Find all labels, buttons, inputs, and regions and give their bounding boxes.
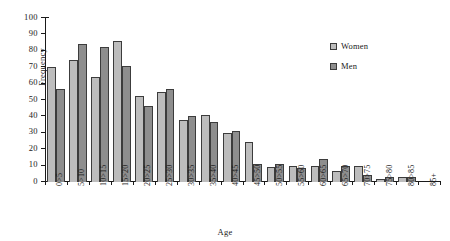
x-tick <box>221 181 222 185</box>
y-tick-label: 80 <box>29 44 38 54</box>
bar-men-10>15 <box>100 47 109 182</box>
x-tick-label: 40>45 <box>231 164 240 186</box>
x-tick <box>264 181 265 185</box>
x-tick-label: 5>10 <box>77 169 86 186</box>
bar-women-15>20 <box>113 41 122 182</box>
y-tick-label: 0 <box>33 176 38 186</box>
y-axis-line <box>45 18 46 182</box>
x-tick <box>243 181 244 185</box>
x-tick <box>440 181 441 185</box>
x-tick <box>111 181 112 185</box>
y-tick-label: 60 <box>29 77 38 87</box>
x-tick-label: 80>85 <box>407 164 416 186</box>
x-tick <box>177 181 178 185</box>
legend-label-men: Men <box>341 61 357 71</box>
x-tick-label: 60>65 <box>319 164 328 186</box>
x-tick-label: 45>50 <box>253 164 262 186</box>
x-tick-label: 30>35 <box>187 164 196 186</box>
y-tick: 60 <box>41 83 46 84</box>
x-tick-label: 75>80 <box>385 164 394 186</box>
bar-women-65>70 <box>332 171 341 182</box>
y-tick-label: 90 <box>29 28 38 38</box>
frequency-by-age-bar-chart: Frequency 0102030405060708090100 0>55>10… <box>0 0 450 241</box>
bar-women-5>10 <box>69 60 78 182</box>
y-tick-label: 70 <box>29 61 38 71</box>
x-tick-label: 50>55 <box>275 164 284 186</box>
x-tick-label: 25>30 <box>165 164 174 186</box>
y-tick-label: 20 <box>29 143 38 153</box>
x-tick-label: 85+ <box>429 173 438 186</box>
bar-women-75>80 <box>376 179 385 182</box>
y-tick: 10 <box>41 165 46 166</box>
y-tick: 70 <box>41 66 46 67</box>
legend: Women Men <box>330 41 368 81</box>
y-tick: 40 <box>41 115 46 116</box>
x-tick <box>45 181 46 185</box>
x-tick <box>155 181 156 185</box>
plot-area: 0102030405060708090100 <box>45 18 440 182</box>
bar-women-0>5 <box>47 67 56 182</box>
bar-men-5>10 <box>78 44 87 182</box>
x-tick-label: 10>15 <box>99 164 108 186</box>
y-tick: 50 <box>41 99 46 100</box>
y-tick: 20 <box>41 148 46 149</box>
x-tick <box>67 181 68 185</box>
legend-label-women: Women <box>341 41 368 51</box>
x-tick <box>286 181 287 185</box>
y-tick-label: 10 <box>29 159 38 169</box>
x-tick <box>133 181 134 185</box>
x-tick <box>396 181 397 185</box>
x-tick-label: 55>60 <box>297 164 306 186</box>
y-tick: 100 <box>41 17 46 18</box>
x-tick <box>374 181 375 185</box>
bar-women-60>65 <box>311 166 320 182</box>
y-tick-label: 40 <box>29 110 38 120</box>
legend-swatch-men-icon <box>330 63 337 70</box>
bar-women-80>85 <box>398 177 407 182</box>
x-tick <box>352 181 353 185</box>
x-tick-label: 0>5 <box>55 173 64 186</box>
x-tick-label: 35>40 <box>209 164 218 186</box>
x-tick-label: 15>20 <box>121 164 130 186</box>
legend-item-women: Women <box>330 41 368 51</box>
x-tick <box>308 181 309 185</box>
legend-item-men: Men <box>330 61 368 71</box>
x-tick-label: 20>25 <box>143 164 152 186</box>
y-tick: 30 <box>41 132 46 133</box>
bar-men-0>5 <box>56 89 65 182</box>
x-axis-title: Age <box>0 227 450 237</box>
y-tick: 80 <box>41 50 46 51</box>
x-tick <box>418 181 419 185</box>
legend-swatch-women-icon <box>330 43 337 50</box>
x-tick-label: 70>75 <box>363 164 372 186</box>
x-tick <box>199 181 200 185</box>
y-tick-label: 100 <box>24 12 38 22</box>
y-tick-label: 30 <box>29 126 38 136</box>
x-tick <box>89 181 90 185</box>
x-tick <box>330 181 331 185</box>
y-tick-label: 50 <box>29 94 38 104</box>
y-tick: 90 <box>41 33 46 34</box>
bar-women-70>75 <box>354 166 363 182</box>
x-tick-label: 65>70 <box>341 164 350 186</box>
